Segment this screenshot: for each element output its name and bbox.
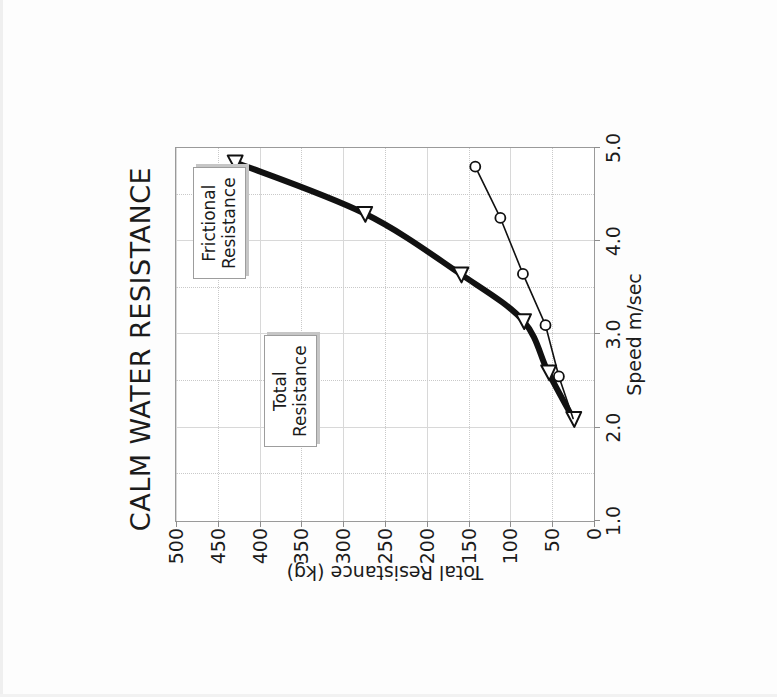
x-tick-label: 4.0: [602, 226, 624, 256]
x-tick-mark: [594, 333, 600, 334]
y-axis-label-text: Total Resistance (kg): [286, 561, 483, 583]
x-tick-mark: [594, 147, 600, 148]
y-tick-mark: [426, 521, 427, 527]
y-tick-label: 100: [499, 528, 521, 564]
annotation-total-resistance: TotalResistance: [264, 335, 317, 447]
y-tick-label: 150: [457, 528, 479, 564]
annotation-frictional-resistance-line2: Resistance: [219, 177, 239, 269]
chart-title: CALM WATER RESISTANCE: [125, 114, 156, 584]
y-tick-label: 400: [248, 528, 270, 564]
y-tick-label: 350: [290, 528, 312, 564]
x-tick-mark: [594, 240, 600, 241]
x-tick-label: 5.0: [602, 132, 624, 162]
y-tick-mark: [259, 521, 260, 527]
plot-area: 0501001502002503003504004505001.02.03.04…: [175, 147, 595, 522]
scanned-page: CALM WATER RESISTANCE Total Resistance (…: [0, 0, 777, 697]
annotation-total-resistance-line2: Resistance: [290, 345, 310, 437]
annotation-frictional-resistance: FrictionalResistance: [193, 167, 246, 279]
y-tick-mark: [301, 521, 302, 527]
data-point-marker-circle: [553, 371, 563, 381]
x-tick-label: 1.0: [602, 505, 624, 535]
x-tick-mark: [594, 520, 600, 521]
y-tick-label: 50: [541, 528, 563, 552]
data-point-marker-circle: [470, 161, 480, 171]
y-tick-label: 500: [165, 528, 187, 564]
data-point-marker-circle: [540, 320, 550, 330]
y-tick-label: 300: [332, 528, 354, 564]
y-tick-mark: [385, 521, 386, 527]
annotation-total-resistance-line1: Total: [270, 345, 290, 437]
y-tick-mark: [552, 521, 553, 527]
x-tick-label: 3.0: [602, 319, 624, 349]
y-tick-label: 250: [374, 528, 396, 564]
page-edge-left: [0, 0, 3, 697]
x-axis-label: Speed m/sec: [623, 147, 645, 522]
y-tick-label: 200: [415, 528, 437, 564]
annotation-frictional-resistance-line1: Frictional: [199, 177, 219, 269]
y-tick-mark: [468, 521, 469, 527]
y-tick-mark: [594, 521, 595, 527]
x-tick-mark: [594, 426, 600, 427]
y-tick-mark: [176, 521, 177, 527]
data-point-marker-circle: [517, 268, 527, 278]
y-tick-mark: [343, 521, 344, 527]
data-point-marker-circle: [495, 212, 505, 222]
y-tick-label: 450: [206, 528, 228, 564]
y-tick-mark: [510, 521, 511, 527]
y-tick-mark: [217, 521, 218, 527]
chart-figure: CALM WATER RESISTANCE Total Resistance (…: [119, 114, 659, 584]
x-tick-label: 2.0: [602, 412, 624, 442]
